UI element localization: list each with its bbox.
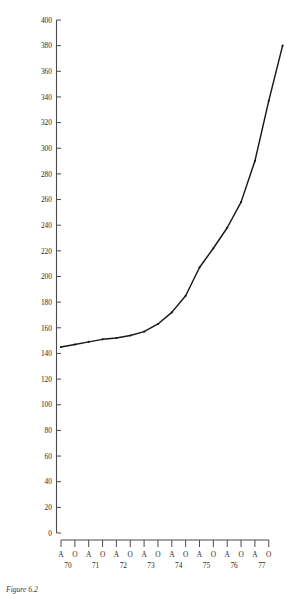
x-axis-year-label: 73	[147, 561, 155, 570]
y-tick-label: 380	[41, 41, 52, 50]
x-tick-label-period: A	[252, 550, 258, 559]
x-tick-label-period: O	[266, 550, 272, 559]
x-tick-label-period: O	[128, 550, 134, 559]
data-point-marker	[129, 334, 131, 336]
data-point-marker	[88, 341, 90, 343]
data-point-marker	[157, 323, 159, 325]
y-axis: 0204060801001201401601802002202402602803…	[41, 16, 61, 538]
y-tick-label: 260	[41, 195, 52, 204]
x-tick-label-period: O	[211, 550, 217, 559]
data-line-series-1	[61, 46, 283, 347]
x-axis: AOAOAOAOAOAOAOAO 7071727374757677	[58, 540, 272, 570]
data-point-marker	[226, 227, 228, 229]
x-axis-ticks	[61, 540, 269, 547]
y-tick-label: 180	[41, 298, 52, 307]
y-tick-label: 320	[41, 118, 52, 127]
x-tick-label-period: O	[238, 550, 244, 559]
y-tick-label: 120	[41, 375, 52, 384]
y-tick-label: 220	[41, 247, 52, 256]
x-tick-label-period: A	[86, 550, 92, 559]
x-axis-year-label: 77	[258, 561, 266, 570]
x-axis-period-labels: AOAOAOAOAOAOAOAO	[58, 550, 272, 559]
y-tick-label: 80	[45, 426, 53, 435]
data-point-marker	[171, 311, 173, 313]
x-tick-label-period: O	[155, 550, 161, 559]
y-tick-label: 140	[41, 349, 52, 358]
figure-caption: Figure 6.2	[6, 585, 280, 594]
data-point-marker	[102, 338, 104, 340]
y-tick-label: 40	[45, 477, 53, 486]
figure-container: 0204060801001201401601802002202402602803…	[0, 0, 286, 594]
x-tick-label-period: A	[114, 550, 120, 559]
y-tick-label: 160	[41, 324, 52, 333]
x-axis-year-label: 76	[230, 561, 238, 570]
y-tick-label: 100	[41, 400, 52, 409]
y-tick-label: 340	[41, 93, 52, 102]
y-tick-label: 360	[41, 67, 52, 76]
data-point-marker	[282, 45, 284, 47]
data-point-marker	[268, 100, 270, 102]
x-tick-label-period: A	[169, 550, 175, 559]
x-tick-label-period: A	[58, 550, 64, 559]
data-point-marker	[60, 346, 62, 348]
y-tick-label: 240	[41, 221, 52, 230]
y-tick-label: 280	[41, 170, 52, 179]
y-tick-label: 300	[41, 144, 52, 153]
data-point-marker	[198, 266, 200, 268]
x-axis-year-label: 70	[64, 561, 72, 570]
x-axis-year-label: 72	[120, 561, 128, 570]
data-point-marker	[240, 201, 242, 203]
data-point-marker	[143, 331, 145, 333]
data-point-marker	[212, 247, 214, 249]
x-tick-label-period: O	[100, 550, 106, 559]
y-axis-tick-labels: 0204060801001201401601802002202402602803…	[41, 16, 52, 538]
x-tick-label-period: O	[183, 550, 189, 559]
data-point-marker	[74, 343, 76, 345]
y-tick-label: 60	[45, 452, 53, 461]
y-tick-label: 0	[48, 529, 52, 538]
data-point-marker	[254, 160, 256, 162]
data-point-marker	[185, 295, 187, 297]
y-tick-label: 400	[41, 16, 52, 25]
x-axis-year-label: 74	[175, 561, 183, 570]
line-chart: 0204060801001201401601802002202402602803…	[0, 0, 286, 594]
data-series-group	[60, 45, 284, 348]
data-point-marker	[115, 337, 117, 339]
x-tick-label-period: A	[197, 550, 203, 559]
x-tick-label-period: A	[141, 550, 147, 559]
data-point-markers	[60, 45, 284, 348]
y-tick-label: 20	[45, 503, 53, 512]
y-axis-ticks	[57, 20, 62, 533]
x-axis-year-labels: 7071727374757677	[64, 561, 266, 570]
y-tick-label: 200	[41, 272, 52, 281]
x-axis-year-label: 75	[203, 561, 211, 570]
x-axis-year-label: 71	[92, 561, 100, 570]
x-tick-label-period: A	[225, 550, 231, 559]
x-tick-label-period: O	[72, 550, 78, 559]
figure-caption-label: Figure 6.2	[6, 585, 38, 594]
